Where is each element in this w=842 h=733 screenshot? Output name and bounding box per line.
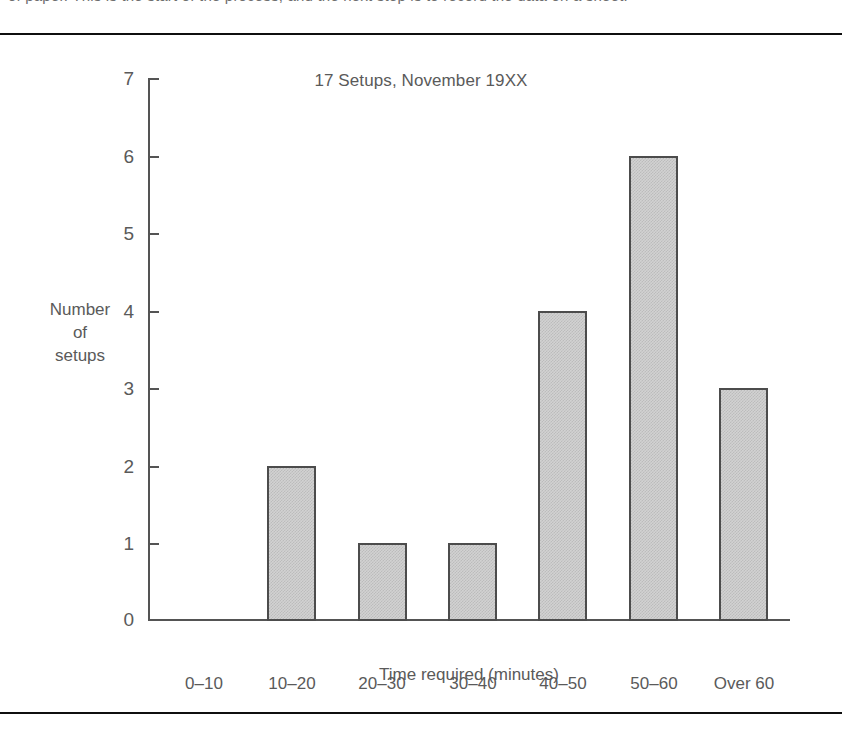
clipped-body-text: of paper. This is the start of the proce… <box>0 0 842 16</box>
y-axis-label-line-2: of <box>28 321 132 344</box>
bar-20-30[interactable] <box>358 543 407 621</box>
y-axis-tick-label-3: 3 <box>123 379 134 399</box>
y-axis-label: Number of setups <box>28 298 132 367</box>
bottom-horizontal-rule <box>0 712 842 714</box>
bar-10-20[interactable] <box>267 466 316 621</box>
y-axis-tick-label-4: 4 <box>123 302 134 322</box>
y-axis-tick-label-7: 7 <box>123 69 134 89</box>
bar-series <box>148 78 790 621</box>
bar-40-50[interactable] <box>538 311 587 621</box>
y-axis-label-line-1: Number <box>28 298 132 321</box>
y-axis-tick-label-5: 5 <box>123 224 134 244</box>
y-axis-tick-label-6: 6 <box>123 147 134 167</box>
y-axis-label-line-3: setups <box>28 344 132 367</box>
bar-over-60[interactable] <box>719 388 768 621</box>
clipped-body-text-line: of paper. This is the start of the proce… <box>8 0 628 4</box>
y-axis-tick-label-0: 0 <box>123 610 134 630</box>
bar-30-40[interactable] <box>448 543 497 621</box>
x-axis-label: Time required (minutes) <box>148 665 790 685</box>
y-axis-tick-label-1: 1 <box>123 534 134 554</box>
histogram-figure: 17 Setups, November 19XX Number of setup… <box>0 35 842 712</box>
plot-area: 7 6 5 4 3 2 1 0 0– <box>148 78 790 621</box>
y-axis-tick-label-2: 2 <box>123 457 134 477</box>
bar-50-60[interactable] <box>629 156 678 621</box>
